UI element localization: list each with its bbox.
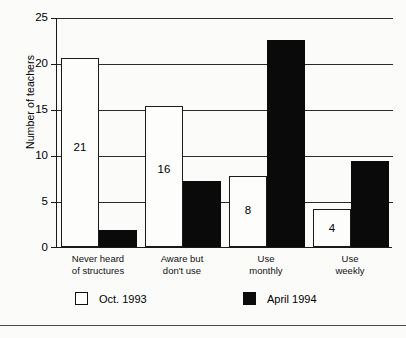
gridline-20 bbox=[57, 64, 393, 65]
y-tick-label-25: 25 bbox=[18, 12, 48, 24]
legend-label-april-1994: April 1994 bbox=[267, 293, 317, 305]
category-label-never-heard-line2: of structures bbox=[56, 265, 140, 277]
gridline-15 bbox=[57, 110, 393, 111]
y-tick-20 bbox=[51, 64, 57, 65]
y-tick-5 bbox=[51, 202, 57, 203]
gridline-10 bbox=[57, 156, 393, 157]
category-label-use-monthly-line2: monthly bbox=[224, 265, 308, 277]
y-tick-0 bbox=[51, 247, 57, 248]
bar-chart-figure: Number of teachers 25 20 15 10 5 0 21 16 bbox=[0, 0, 406, 338]
plot-area: 21 16 8 4 bbox=[56, 18, 392, 248]
bar-oct1993-never-heard[interactable]: 21 bbox=[61, 58, 99, 248]
bar-oct1993-use-weekly[interactable]: 4 bbox=[313, 209, 351, 247]
legend-label-oct-1993: Oct. 1993 bbox=[99, 293, 147, 305]
category-label-use-weekly: Use weekly bbox=[308, 253, 392, 276]
category-label-use-weekly-line2: weekly bbox=[308, 265, 392, 277]
legend-swatch-april-1994 bbox=[243, 292, 256, 305]
y-tick-25 bbox=[51, 18, 57, 19]
bar-oct1993-aware-not-use[interactable]: 16 bbox=[145, 106, 183, 247]
gridline-25 bbox=[57, 18, 393, 19]
y-tick-label-20: 20 bbox=[18, 58, 48, 70]
bar-value-oct1993-use-monthly: 8 bbox=[230, 204, 266, 216]
category-label-aware-not-use: Aware but don't use bbox=[140, 253, 224, 276]
category-label-use-weekly-line1: Use bbox=[308, 253, 392, 265]
category-label-aware-not-use-line2: don't use bbox=[140, 265, 224, 277]
bar-april1994-aware-not-use[interactable] bbox=[183, 181, 221, 247]
gridline-5 bbox=[57, 202, 393, 203]
category-label-use-monthly: Use monthly bbox=[224, 253, 308, 276]
bar-value-oct1993-use-weekly: 4 bbox=[314, 222, 350, 234]
category-label-use-monthly-line1: Use bbox=[224, 253, 308, 265]
bar-april1994-use-monthly[interactable] bbox=[267, 40, 305, 247]
bar-april1994-use-weekly[interactable] bbox=[351, 161, 389, 247]
y-tick-label-15: 15 bbox=[18, 104, 48, 116]
legend-item-april-1994[interactable]: April 1994 bbox=[243, 292, 317, 305]
bar-value-oct1993-never-heard: 21 bbox=[62, 141, 98, 153]
y-tick-10 bbox=[51, 156, 57, 157]
y-tick-label-10: 10 bbox=[18, 150, 48, 162]
y-tick-label-5: 5 bbox=[18, 196, 48, 208]
bar-oct1993-use-monthly[interactable]: 8 bbox=[229, 176, 267, 247]
y-tick-label-0: 0 bbox=[18, 242, 48, 254]
category-label-never-heard: Never heard of structures bbox=[56, 253, 140, 276]
bar-value-oct1993-aware-not-use: 16 bbox=[146, 163, 182, 175]
y-tick-15 bbox=[51, 110, 57, 111]
page-bottom-rule bbox=[0, 325, 406, 326]
legend-item-oct-1993[interactable]: Oct. 1993 bbox=[75, 292, 147, 305]
legend-swatch-oct-1993 bbox=[75, 292, 88, 305]
category-label-never-heard-line1: Never heard bbox=[56, 253, 140, 265]
category-label-aware-not-use-line1: Aware but bbox=[140, 253, 224, 265]
bar-april1994-never-heard[interactable] bbox=[99, 230, 137, 248]
